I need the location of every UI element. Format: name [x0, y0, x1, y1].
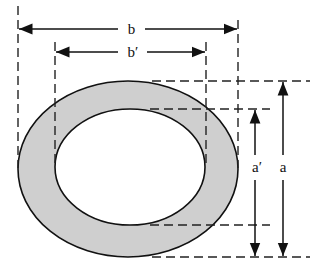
ring-diagram: b b′ a a′: [0, 0, 324, 275]
label-a: a: [280, 159, 287, 175]
diagram-canvas: b b′ a a′: [0, 0, 324, 275]
label-a-prime: a′: [252, 159, 262, 175]
ring-shape: [18, 81, 238, 257]
inner-ellipse: [55, 109, 205, 225]
label-b: b: [128, 21, 136, 37]
label-b-prime: b′: [128, 44, 139, 60]
